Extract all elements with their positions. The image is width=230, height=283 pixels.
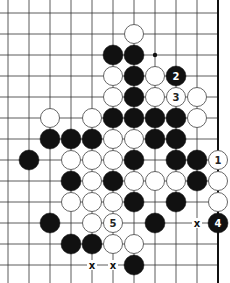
white-stone xyxy=(209,193,228,212)
white-stone-move-5: 5 xyxy=(104,214,123,233)
black-stone-move-4: 4 xyxy=(208,213,228,233)
white-stone xyxy=(62,151,81,170)
white-stone xyxy=(125,25,144,44)
move-number-label: 4 xyxy=(215,218,222,229)
x-mark: x xyxy=(108,260,118,271)
x-mark: x xyxy=(192,218,202,229)
black-stone xyxy=(187,150,207,170)
white-stone xyxy=(188,88,207,107)
white-stone xyxy=(146,67,165,86)
black-stone xyxy=(103,108,123,128)
white-stone-move-1: 1 xyxy=(209,151,228,170)
black-stone xyxy=(124,66,144,86)
white-stone xyxy=(62,193,81,212)
star-points xyxy=(153,53,157,57)
black-stone xyxy=(82,129,102,149)
black-stone xyxy=(145,213,165,233)
black-stone xyxy=(124,87,144,107)
black-stone xyxy=(145,108,165,128)
black-stone xyxy=(124,108,144,128)
white-stone xyxy=(104,235,123,254)
black-stone xyxy=(61,234,81,254)
white-stone xyxy=(41,109,60,128)
white-stone xyxy=(104,88,123,107)
white-stone xyxy=(83,214,102,233)
black-stone xyxy=(145,129,165,149)
white-stone xyxy=(146,172,165,191)
black-stone xyxy=(124,150,144,170)
white-stone xyxy=(146,88,165,107)
white-stone xyxy=(83,109,102,128)
white-stone xyxy=(104,151,123,170)
black-stone xyxy=(166,150,186,170)
white-stone xyxy=(167,172,186,191)
move-number-label: 5 xyxy=(110,218,117,229)
go-board-diagram: 23154 xxx xyxy=(0,0,230,283)
x-mark: x xyxy=(87,260,97,271)
white-stone xyxy=(188,109,207,128)
white-stone xyxy=(125,172,144,191)
star-point xyxy=(153,53,157,57)
white-stone xyxy=(83,193,102,212)
black-stone xyxy=(82,234,102,254)
move-number-label: 1 xyxy=(215,155,222,166)
svg-text:x: x xyxy=(110,260,117,271)
white-stone xyxy=(104,130,123,149)
white-stone xyxy=(104,193,123,212)
black-stone xyxy=(40,129,60,149)
move-number-label: 2 xyxy=(173,71,180,82)
white-stone xyxy=(209,172,228,191)
svg-text:x: x xyxy=(194,218,201,229)
white-stone xyxy=(83,151,102,170)
move-number-label: 3 xyxy=(173,92,180,103)
black-stone xyxy=(61,129,81,149)
black-stone xyxy=(19,150,39,170)
black-stone xyxy=(166,129,186,149)
black-stone xyxy=(61,171,81,191)
white-stone xyxy=(104,67,123,86)
black-stone xyxy=(103,45,123,65)
svg-text:x: x xyxy=(89,260,96,271)
black-stone xyxy=(124,45,144,65)
black-stone xyxy=(166,192,186,212)
black-stone xyxy=(124,192,144,212)
black-stone xyxy=(40,213,60,233)
black-stone xyxy=(103,171,123,191)
white-stone xyxy=(125,235,144,254)
white-stone xyxy=(125,130,144,149)
white-stone xyxy=(83,172,102,191)
black-stone-move-2: 2 xyxy=(166,66,186,86)
black-stone xyxy=(124,255,144,275)
white-stone-move-3: 3 xyxy=(167,88,186,107)
black-stone xyxy=(166,108,186,128)
black-stone xyxy=(187,171,207,191)
